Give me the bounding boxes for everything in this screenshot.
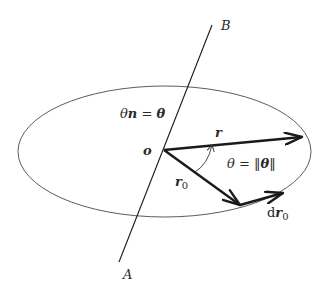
origin-label: o	[143, 143, 152, 158]
equals-sign: =	[137, 106, 156, 121]
axis-end-label-b: B	[220, 18, 231, 33]
theta-symbol: θ	[120, 106, 128, 121]
dr0-subscript: 0	[282, 211, 288, 222]
vector-dr0-arrow	[240, 193, 283, 205]
angle-theta-vector: θ	[261, 156, 270, 171]
dr0-prefix: d	[267, 205, 275, 220]
angle-label: θ = ‖θ‖	[227, 156, 276, 171]
r0-subscript: 0	[182, 180, 188, 191]
axis-start-label-a: A	[122, 267, 132, 282]
vector-r-arrow	[164, 137, 302, 150]
rotation-diagram: B A θn = θ o r r0 dr0 θ = ‖θ‖	[0, 0, 326, 290]
axis-vector-label: θn = θ	[120, 106, 165, 121]
angle-arc-arrow	[195, 145, 212, 172]
theta-vector-symbol: θ	[156, 106, 165, 121]
angle-theta: θ	[227, 156, 235, 171]
rotation-axis-line	[119, 25, 212, 262]
vector-dr0-label: dr0	[267, 205, 289, 222]
angle-equals: =	[235, 156, 254, 171]
n-vector-symbol: n	[128, 106, 137, 121]
norm-close: ‖	[269, 156, 276, 171]
vector-r-label: r	[215, 125, 223, 140]
vector-r0-label: r0	[175, 174, 188, 191]
